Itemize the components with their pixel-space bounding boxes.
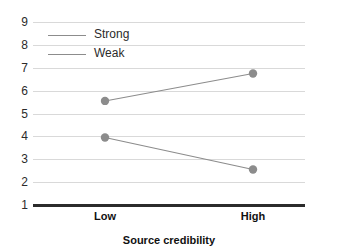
gridline-4	[33, 136, 305, 137]
legend-line-icon	[48, 35, 86, 36]
x-tick-label-high: High	[213, 211, 293, 222]
line-chart: 9 8 7 6 5 4 3 2 1 Strong Weak Low High S…	[0, 0, 338, 251]
gridline-9	[33, 22, 305, 23]
y-tick-label-4: 4	[4, 130, 28, 142]
x-tick-label-low: Low	[65, 211, 145, 222]
y-tick-label-2: 2	[4, 176, 28, 188]
gridline-6	[33, 91, 305, 92]
gridline-2	[33, 182, 305, 183]
x-axis-baseline	[33, 204, 305, 207]
y-tick-label-5: 5	[4, 108, 28, 120]
legend-label-strong: Strong	[94, 28, 129, 41]
y-tick-label-3: 3	[4, 153, 28, 165]
legend: Strong Weak	[48, 27, 168, 65]
y-tick-label-1: 1	[4, 199, 28, 211]
y-tick-label-8: 8	[4, 39, 28, 51]
x-axis-title: Source credibility	[0, 235, 338, 246]
gridline-7	[33, 68, 305, 69]
gridline-3	[33, 159, 305, 160]
legend-line-icon	[48, 54, 86, 55]
y-tick-label-9: 9	[4, 16, 28, 28]
legend-item-strong: Strong	[48, 27, 168, 46]
y-tick-label-6: 6	[4, 85, 28, 97]
legend-label-weak: Weak	[94, 47, 124, 60]
legend-item-weak: Weak	[48, 46, 168, 65]
y-tick-label-7: 7	[4, 62, 28, 74]
gridline-5	[33, 114, 305, 115]
